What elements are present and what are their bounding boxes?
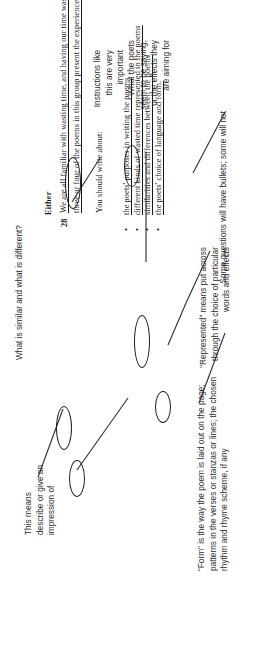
bullet-icon: • bbox=[143, 215, 154, 231]
section-label-either: Either bbox=[44, 192, 53, 215]
question-stem-line-1: We are all familiar with wasting time, a… bbox=[59, 0, 68, 213]
annotation-form: “Form” is the way the poem is laid out o… bbox=[196, 329, 231, 571]
leader-line-this-means bbox=[77, 398, 128, 470]
question-number: 28 bbox=[60, 219, 69, 227]
question-stem-line-2: three or four of the poems in this group… bbox=[72, 0, 81, 213]
bullet-icon: • bbox=[154, 215, 165, 231]
page-heading-question: What is similar and what is different? bbox=[14, 225, 24, 360]
bullet-icon: • bbox=[133, 215, 144, 231]
annotation-poets: What the poets seem to be saying, or the… bbox=[126, 40, 172, 156]
annotation-this-means: This means describe or give an impressio… bbox=[23, 399, 58, 535]
rotated-page-canvas: What is similar and what is different? E… bbox=[0, 0, 255, 645]
annotation-bullets: Some questions will have bullets; some w… bbox=[218, 111, 230, 353]
annotation-instructions: Instructions like this are very importan… bbox=[92, 50, 127, 162]
scanned-exam-page: What is similar and what is different? E… bbox=[0, 0, 255, 645]
bullet-icon: • bbox=[122, 215, 133, 231]
